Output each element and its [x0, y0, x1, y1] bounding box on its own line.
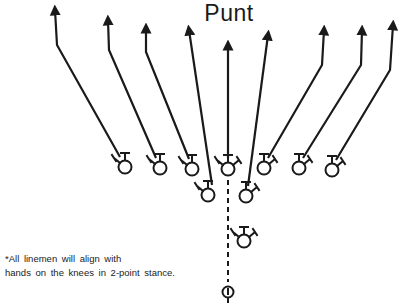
- arm-icon: [233, 157, 241, 165]
- note-line-1: *All linemen will align with: [5, 252, 175, 266]
- alignment-note: *All linemen will align with hands on th…: [5, 252, 175, 280]
- route-le: [55, 10, 120, 157]
- arm-icon: [251, 184, 259, 192]
- route-rt: [303, 30, 362, 158]
- arm-icon: [215, 157, 223, 165]
- player-rg: [258, 154, 278, 175]
- head-icon: [156, 154, 164, 160]
- head-icon: [240, 227, 248, 233]
- arm-icon: [179, 157, 187, 165]
- arm-icon: [249, 229, 257, 237]
- head-icon: [121, 153, 129, 159]
- route-lg: [146, 28, 189, 159]
- player-le: [112, 153, 132, 174]
- head-icon: [224, 155, 232, 161]
- player-rw: [240, 182, 260, 203]
- arm-icon: [195, 183, 203, 191]
- head-icon: [328, 156, 336, 162]
- player-pp: [231, 227, 257, 248]
- player-rt: [293, 154, 313, 175]
- arm-icon: [231, 229, 239, 237]
- arm-icon: [304, 156, 312, 164]
- arm-icon: [147, 156, 155, 164]
- head-icon: [260, 154, 268, 160]
- arm-icon: [337, 158, 345, 166]
- note-line-2: hands on the knees in 2-point stance.: [5, 266, 175, 280]
- player-c: [215, 155, 241, 176]
- player-p: [223, 287, 234, 303]
- player-re: [326, 156, 346, 177]
- head-icon: [295, 154, 303, 160]
- route-lt: [108, 20, 156, 158]
- arm-icon: [269, 156, 277, 164]
